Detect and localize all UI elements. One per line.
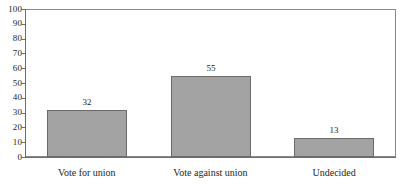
y-tick-mark [21, 53, 25, 54]
bars-layer: 325513 [0, 0, 405, 184]
y-tick-mark [21, 9, 25, 10]
y-tick-mark [21, 113, 25, 114]
bar-value-label: 55 [171, 64, 251, 73]
y-tick-mark [21, 127, 25, 128]
y-tick-mark [21, 157, 25, 158]
y-tick-mark [21, 39, 25, 40]
y-tick-mark [21, 83, 25, 84]
bar [47, 110, 127, 157]
y-tick-mark [21, 142, 25, 143]
bar-value-label: 13 [294, 126, 374, 135]
x-axis-category-label: Vote for union [25, 167, 149, 178]
bar-chart: 0102030405060708090100 325513 Vote for u… [0, 0, 405, 184]
bar-value-label: 32 [47, 98, 127, 107]
bar [294, 138, 374, 157]
y-tick-mark [21, 68, 25, 69]
x-axis-category-label: Vote against union [149, 167, 273, 178]
x-axis-category-label: Undecided [272, 167, 396, 178]
y-tick-mark [21, 98, 25, 99]
y-tick-mark [21, 24, 25, 25]
bar [171, 76, 251, 157]
